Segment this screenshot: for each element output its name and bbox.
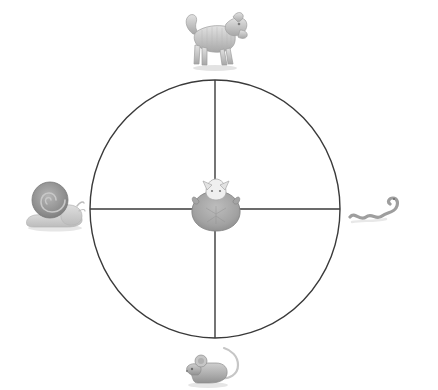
- diagram-canvas: [0, 0, 438, 390]
- mouse-nose: [186, 370, 188, 372]
- dog-figure: [178, 6, 250, 72]
- snake-shadow: [352, 219, 386, 222]
- cat-eye-left: [211, 190, 213, 192]
- mouse-figure: [184, 344, 256, 390]
- snake-eye: [393, 198, 395, 200]
- dog-snout: [238, 30, 247, 38]
- dog-shadow: [193, 65, 237, 71]
- snake-figure: [348, 190, 408, 234]
- cat-head: [206, 179, 226, 200]
- cat-figure: [186, 176, 246, 238]
- snail-tentacle-upper: [77, 202, 84, 206]
- snail-figure: [22, 178, 88, 236]
- dog-front-leg-1: [220, 49, 227, 65]
- dog-body-group: [186, 13, 247, 65]
- snake-body: [350, 198, 397, 218]
- dog-front-leg-2: [226, 48, 233, 64]
- dog-hind-leg-1: [194, 45, 200, 64]
- cat-eye-right: [219, 190, 221, 192]
- mouse-ear-inner: [198, 358, 204, 364]
- dog-hind-leg-2: [202, 47, 207, 65]
- dog-eye: [238, 23, 241, 26]
- mouse-eye: [191, 368, 193, 370]
